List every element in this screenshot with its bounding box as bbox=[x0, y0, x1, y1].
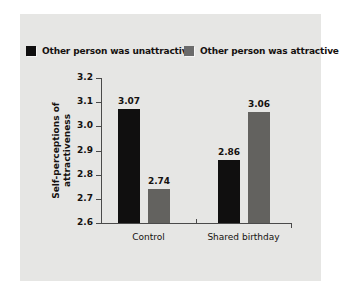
x-axis-label-shared-birthday: Shared birthday bbox=[196, 232, 291, 242]
figure-root: Other person was unattractive Other pers… bbox=[0, 0, 340, 296]
y-tick-label-3-2: 3.2 bbox=[77, 72, 93, 82]
y-tick-2-6: 2.6 bbox=[96, 223, 101, 224]
y-tick-3-2: 3.2 bbox=[96, 78, 101, 79]
y-tick-label-2-8: 2.8 bbox=[77, 169, 93, 179]
y-tick-label-2-7: 2.7 bbox=[77, 193, 93, 203]
x-axis-label-control: Control bbox=[101, 232, 196, 242]
y-tick-label-3-1: 3.1 bbox=[77, 96, 93, 106]
bar-fill bbox=[148, 189, 170, 223]
y-tick-2-7: 2.7 bbox=[96, 199, 101, 200]
y-tick-label-3-0: 3.0 bbox=[77, 120, 93, 130]
bar-value-shared-birthday-attractive: 3.06 bbox=[248, 99, 270, 109]
y-tick-label-2-6: 2.6 bbox=[77, 217, 93, 227]
y-tick-2-8: 2.8 bbox=[96, 175, 101, 176]
legend-label-unattractive: Other person was unattractive bbox=[42, 46, 193, 56]
bar-shared-birthday-attractive[interactable]: 3.06 bbox=[248, 112, 270, 223]
y-tick-2-9: 2.9 bbox=[96, 151, 101, 152]
bar-fill bbox=[248, 112, 270, 223]
dark-swatch-icon bbox=[26, 46, 36, 56]
y-tick-label-2-9: 2.9 bbox=[77, 145, 93, 155]
plot-area: 3.2 3.1 3.0 2.9 2.8 2.7 2.6 3.07 2.74 bbox=[101, 78, 292, 223]
bar-value-control-unattractive: 3.07 bbox=[118, 96, 140, 106]
y-tick-3-1: 3.1 bbox=[96, 102, 101, 103]
y-tick-3-0: 3.0 bbox=[96, 126, 101, 127]
legend-label-attractive: Other person was attractive bbox=[200, 46, 339, 56]
bar-control-attractive[interactable]: 2.74 bbox=[148, 189, 170, 223]
x-axis-end-tick bbox=[291, 223, 292, 228]
bar-fill bbox=[218, 160, 240, 223]
legend-item-unattractive[interactable]: Other person was unattractive bbox=[26, 46, 193, 56]
bar-control-unattractive[interactable]: 3.07 bbox=[118, 109, 140, 223]
bar-value-control-attractive: 2.74 bbox=[148, 176, 170, 186]
chart-legend: Other person was unattractive Other pers… bbox=[20, 44, 321, 66]
bar-fill bbox=[118, 109, 140, 223]
bar-value-shared-birthday-unattractive: 2.86 bbox=[218, 147, 240, 157]
bar-shared-birthday-unattractive[interactable]: 2.86 bbox=[218, 160, 240, 223]
legend-item-attractive[interactable]: Other person was attractive bbox=[184, 46, 339, 56]
y-axis-line bbox=[101, 78, 102, 223]
x-axis-mid-tick bbox=[196, 219, 197, 224]
gray-swatch-icon bbox=[184, 46, 194, 56]
